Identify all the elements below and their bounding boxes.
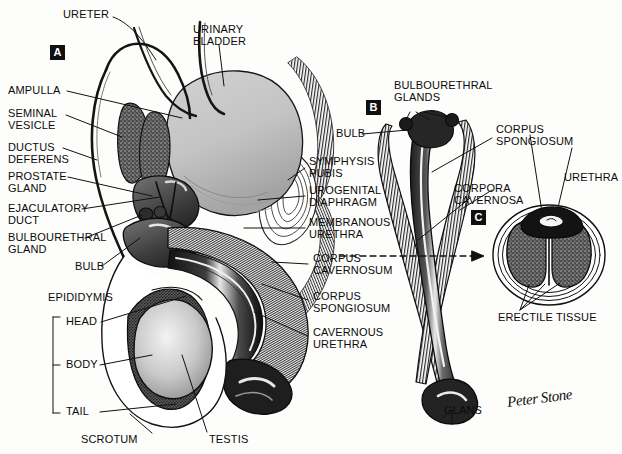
label-corpus-spongiosum-c: CORPUS SPONGIOSUM xyxy=(496,124,573,147)
label-corpus-spongiosum-a: CORPUS SPONGIOSUM xyxy=(313,291,390,314)
label-epididymis-tail: TAIL xyxy=(66,406,89,418)
label-scrotum: SCROTUM xyxy=(81,434,138,446)
label-prostate-gland: PROSTATE GLAND xyxy=(8,171,67,194)
label-membranous-urethra: MEMBRANOUS URETHRA xyxy=(309,217,391,240)
label-bulbourethral-glands-b: BULBOURETHRAL GLANDS xyxy=(394,80,493,103)
label-erectile-tissue: ERECTILE TISSUE xyxy=(498,312,597,324)
testis-shape xyxy=(134,300,212,399)
label-urinary-bladder: URINARY BLADDER xyxy=(193,24,246,47)
label-cavernous-urethra: CAVERNOUS URETHRA xyxy=(313,327,383,350)
label-epididymis-body: BODY xyxy=(66,359,98,371)
label-corpus-cavernosum: CORPUS CAVERNOSUM xyxy=(313,253,393,276)
label-bulb-b: BULB xyxy=(336,128,365,140)
label-ductus-deferens: DUCTUS DEFERENS xyxy=(8,142,69,165)
label-testis: TESTIS xyxy=(209,434,248,446)
label-epididymis-head: HEAD xyxy=(66,316,97,328)
anatomy-figure: A B C URETER URINARY BLADDER AMPULLA SEM… xyxy=(0,0,622,454)
label-epididymis: EPIDIDYMIS xyxy=(48,292,113,304)
panel-tag-a: A xyxy=(50,45,65,60)
label-seminal-vesicle: SEMINAL VESICLE xyxy=(8,108,57,131)
label-bulbourethral-gland: BULBOURETHRAL GLAND xyxy=(8,232,107,255)
panel-b-illustration xyxy=(378,111,477,424)
label-ejaculatory-duct: EJACULATORY DUCT xyxy=(8,203,89,226)
label-glans: GLANS xyxy=(444,405,482,417)
panel-tag-c: C xyxy=(471,210,486,225)
panel-tag-b: B xyxy=(366,100,381,115)
label-urogenital-diaphragm: UROGENITAL DIAPHRAGM xyxy=(309,185,381,208)
label-bulb-a: BULB xyxy=(75,261,104,273)
label-ampulla: AMPULLA xyxy=(8,85,60,97)
label-symphysis-pubis: SYMPHYSIS PUBIS xyxy=(309,156,375,179)
label-corpora-cavernosa-b: CORPORA CAVERNOSA xyxy=(454,183,524,206)
label-urethra-c: URETHRA xyxy=(564,172,618,184)
label-ureter: URETER xyxy=(63,9,109,21)
